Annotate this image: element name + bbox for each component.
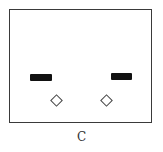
blot-frame [9, 9, 152, 123]
right-band [111, 73, 132, 80]
left-band [30, 74, 52, 81]
right-diamond-spot-icon [100, 94, 113, 107]
panel-label: C [0, 130, 163, 144]
left-diamond-spot-icon [50, 94, 63, 107]
